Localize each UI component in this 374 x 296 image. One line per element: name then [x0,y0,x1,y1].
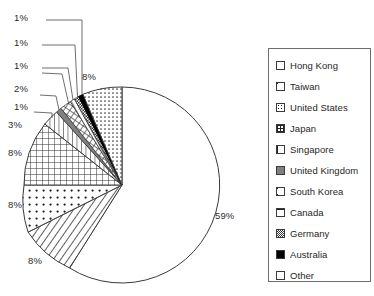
data-label-germany: 1% [14,38,28,48]
checkerboard-swatch-icon [276,229,285,238]
legend-item-other[interactable]: Other [276,265,370,286]
legend-item-japan[interactable]: Japan [276,118,370,139]
data-label-japan: 8% [8,148,22,158]
leader-line-united-kingdom [40,95,59,110]
legend-label-japan: Japan [290,123,316,134]
legend-label-singapore: Singapore [290,144,334,155]
chart-legend: Hong Kong Taiwan United States Japan Sin… [268,48,371,282]
legend-item-hong-kong[interactable]: Hong Kong [276,55,370,76]
data-label-united-states: 8% [8,200,22,210]
legend-label-hong-kong: Hong Kong [290,60,338,71]
diagonal-crosshatch-swatch-icon [276,187,285,196]
legend-item-singapore[interactable]: Singapore [276,139,370,160]
dots-swatch-icon [276,103,285,112]
blank-swatch-icon [276,61,285,70]
legend-label-australia: Australia [290,249,327,260]
legend-item-list: Hong Kong Taiwan United States Japan Sin… [276,55,370,286]
solid-gray-swatch-icon [276,166,285,175]
grid-swatch-icon [276,124,285,133]
legend-label-germany: Germany [290,228,329,239]
legend-label-taiwan: Taiwan [290,81,320,92]
legend-label-united-kingdom: United Kingdom [290,165,358,176]
leader-line-germany [42,45,78,97]
data-label-taiwan: 8% [28,256,42,266]
legend-item-united-kingdom[interactable]: United Kingdom [276,160,370,181]
legend-item-australia[interactable]: Australia [276,244,370,265]
data-label-hong-kong: 59% [215,211,234,221]
data-label-south-korea: 2% [14,84,28,94]
data-label-other: 8% [82,72,96,82]
legend-item-taiwan[interactable]: Taiwan [276,76,370,97]
solid-black-swatch-icon [276,250,285,259]
vertical-lines-swatch-icon [276,145,285,154]
legend-item-canada[interactable]: Canada [276,202,370,223]
leader-line-singapore [34,112,52,118]
fine-dotted-swatch-icon [276,271,285,280]
legend-item-united-states[interactable]: United States [276,97,370,118]
pie-chart-figure: 1% 1% 1% 2% 1% 3% 8% 8% 8% 8% 59% Hong K… [0,0,374,296]
legend-label-united-states: United States [290,102,348,113]
data-label-singapore: 3% [8,120,22,130]
data-label-united-kingdom: 1% [14,102,28,112]
legend-item-germany[interactable]: Germany [276,223,370,244]
data-label-canada: 1% [14,61,28,71]
legend-item-south-korea[interactable]: South Korea [276,181,370,202]
horizontal-lines-swatch-icon [276,208,285,217]
diagonal-lines-swatch-icon [276,82,285,91]
legend-label-south-korea: South Korea [290,186,343,197]
data-label-australia: 1% [14,13,28,23]
legend-label-canada: Canada [290,207,324,218]
legend-label-other: Other [290,270,314,281]
leader-line-south-korea [42,73,69,103]
